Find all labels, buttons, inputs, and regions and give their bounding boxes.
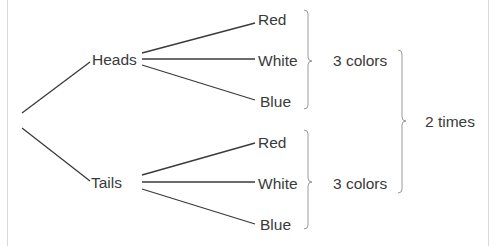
edge-root-tails: [22, 128, 90, 181]
node-heads-red: Red: [258, 12, 286, 28]
node-tails-red: Red: [258, 135, 286, 151]
brace-heads-colors: [304, 10, 312, 109]
node-heads-white: White: [258, 53, 298, 69]
brace-total: [398, 50, 406, 193]
group-label-tails: 3 colors: [333, 176, 387, 192]
node-heads-blue: Blue: [260, 94, 291, 110]
brace-tails-colors: [304, 130, 312, 229]
total-label: 2 times: [425, 114, 475, 130]
node-tails: Tails: [91, 175, 122, 191]
edge-heads-red: [142, 23, 255, 53]
edge-root-heads: [22, 62, 90, 113]
group-label-heads: 3 colors: [333, 53, 387, 69]
node-heads: Heads: [92, 52, 137, 68]
node-tails-blue: Blue: [260, 217, 291, 233]
tree-diagram: Heads Tails Red White Blue Red White Blu…: [0, 0, 499, 246]
node-tails-white: White: [258, 176, 298, 192]
edge-tails-red: [142, 143, 255, 175]
edge-tails-blue: [142, 189, 255, 224]
edge-heads-blue: [142, 65, 255, 100]
